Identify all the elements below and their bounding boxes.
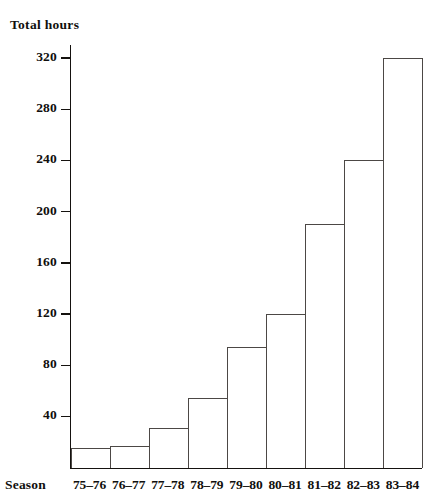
x-axis-tick-label: 83–84 <box>383 477 422 493</box>
y-axis-tick-label: 240 <box>36 151 57 167</box>
y-axis-tick-label: 160 <box>36 254 57 270</box>
x-axis-tick-label: 79–80 <box>226 477 265 493</box>
bar-chart: Total hours 4080120160200240280320 Seaso… <box>0 0 440 503</box>
y-axis-tick-mark <box>61 57 70 58</box>
x-axis-tick-label: 78–79 <box>187 477 226 493</box>
bar <box>149 428 189 468</box>
y-axis-tick-label: 40 <box>43 407 57 423</box>
bar <box>227 347 267 467</box>
x-axis-tick-label: 75–76 <box>70 477 109 493</box>
bar <box>110 446 150 468</box>
y-axis-tick-label: 320 <box>36 49 57 65</box>
y-axis-tick-label: 280 <box>36 100 57 116</box>
y-axis-tick-label: 120 <box>36 305 57 321</box>
y-axis-title: Total hours <box>10 17 79 33</box>
bar <box>305 224 345 467</box>
y-axis-tick-mark <box>61 365 70 366</box>
y-axis-tick-mark <box>61 262 70 263</box>
x-axis-tick-label: 82–83 <box>344 477 383 493</box>
x-axis-tick-labels: 75–7676–7777–7878–7979–8080–8181–8282–83… <box>70 477 422 493</box>
bar <box>344 160 384 467</box>
y-axis-tick-label: 200 <box>36 203 57 219</box>
bar <box>188 398 228 467</box>
bar <box>383 58 423 468</box>
x-axis-tick-label: 77–78 <box>148 477 187 493</box>
bar <box>266 314 306 468</box>
y-axis-tick-mark <box>61 416 70 417</box>
y-axis-tick-mark <box>61 313 70 314</box>
x-axis-title: Season <box>5 477 46 493</box>
y-axis-tick-label: 80 <box>43 356 57 372</box>
y-axis-tick-mark <box>61 160 70 161</box>
x-axis-tick-label: 76–77 <box>109 477 148 493</box>
x-axis-line <box>70 468 422 469</box>
y-axis-tick-mark <box>61 211 70 212</box>
bar <box>71 448 111 467</box>
bar-series <box>71 45 422 468</box>
x-axis-tick-label: 80–81 <box>266 477 305 493</box>
x-axis-tick-label: 81–82 <box>305 477 344 493</box>
y-axis-tick-mark <box>61 109 70 110</box>
